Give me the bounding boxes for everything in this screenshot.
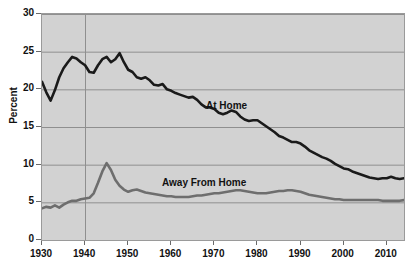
series-annotation-at-home: At Home bbox=[206, 100, 247, 111]
y-tick-label: 20 bbox=[23, 83, 34, 93]
x-tick-label: 1970 bbox=[202, 249, 224, 259]
y-axis-title: Percent bbox=[8, 71, 19, 141]
y-tick-label: 15 bbox=[23, 121, 34, 131]
x-tick-label: 1980 bbox=[245, 249, 267, 259]
y-tick-label: 5 bbox=[28, 196, 34, 206]
x-axis: 193019401950196019701980199020002010 bbox=[0, 241, 416, 267]
y-tick-label: 10 bbox=[23, 159, 34, 169]
x-tick-mark bbox=[386, 241, 387, 245]
y-tick-mark bbox=[36, 201, 41, 202]
x-tick-label: 1960 bbox=[159, 249, 181, 259]
y-tick-mark bbox=[36, 239, 41, 240]
x-tick-label: 1990 bbox=[288, 249, 310, 259]
x-tick-mark bbox=[84, 241, 85, 245]
series-line-at-home bbox=[42, 53, 404, 179]
y-tick-mark bbox=[36, 13, 41, 14]
series-annotation-away-from-home: Away From Home bbox=[162, 177, 246, 188]
y-tick-mark bbox=[36, 51, 41, 52]
x-tick-mark bbox=[127, 241, 128, 245]
x-tick-label: 2000 bbox=[332, 249, 354, 259]
x-tick-mark bbox=[213, 241, 214, 245]
food-expenditure-line-chart: Percent 051015202530 1930194019501960197… bbox=[0, 0, 416, 267]
plot-svg bbox=[42, 14, 404, 240]
x-tick-mark bbox=[300, 241, 301, 245]
y-axis: Percent 051015202530 bbox=[0, 0, 41, 267]
x-tick-mark bbox=[170, 241, 171, 245]
y-tick-mark bbox=[36, 164, 41, 165]
x-tick-label: 1940 bbox=[73, 249, 95, 259]
x-tick-label: 2010 bbox=[375, 249, 397, 259]
y-tick-mark bbox=[36, 88, 41, 89]
x-tick-mark bbox=[343, 241, 344, 245]
y-tick-label: 25 bbox=[23, 46, 34, 56]
x-tick-mark bbox=[41, 241, 42, 245]
y-tick-label: 30 bbox=[23, 8, 34, 18]
x-tick-label: 1930 bbox=[30, 249, 52, 259]
y-tick-mark bbox=[36, 126, 41, 127]
x-tick-label: 1950 bbox=[116, 249, 138, 259]
plot-area bbox=[41, 13, 405, 241]
x-tick-mark bbox=[256, 241, 257, 245]
